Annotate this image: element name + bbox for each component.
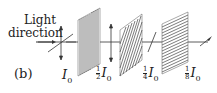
numerator: 1 [96,66,100,73]
numerator: 1 [185,66,189,73]
intensity-label-0: I0 [62,68,72,87]
intensity-subscript: 0 [154,74,159,83]
direction-label: direction [8,27,63,39]
light-label: Light [24,14,56,26]
denominator: 4 [143,73,147,81]
intensity-subscript: 0 [107,74,112,83]
panel-label: (b) [14,68,32,80]
intensity-label-2: 14I0 [143,66,159,85]
intensity-subscript: 0 [67,76,72,85]
fraction: 14 [143,66,147,81]
denominator: 2 [96,73,100,81]
intensity-subscript: 0 [196,74,201,83]
numerator: 1 [143,66,147,73]
fraction: 18 [185,66,189,81]
denominator: 8 [185,73,189,81]
polarizer-diagram: Light direction (b) I0 12I0 14I0 18I0 [0,0,217,93]
fraction: 12 [96,66,100,81]
output-arrowhead-icon [207,36,212,41]
vertical-field-icon [110,24,113,62]
intensity-label-3: 18I0 [185,66,201,85]
diagonal-polarizer [120,14,142,76]
intensity-label-1: 12I0 [96,66,112,85]
light-direction-arrowhead-icon [52,40,56,44]
